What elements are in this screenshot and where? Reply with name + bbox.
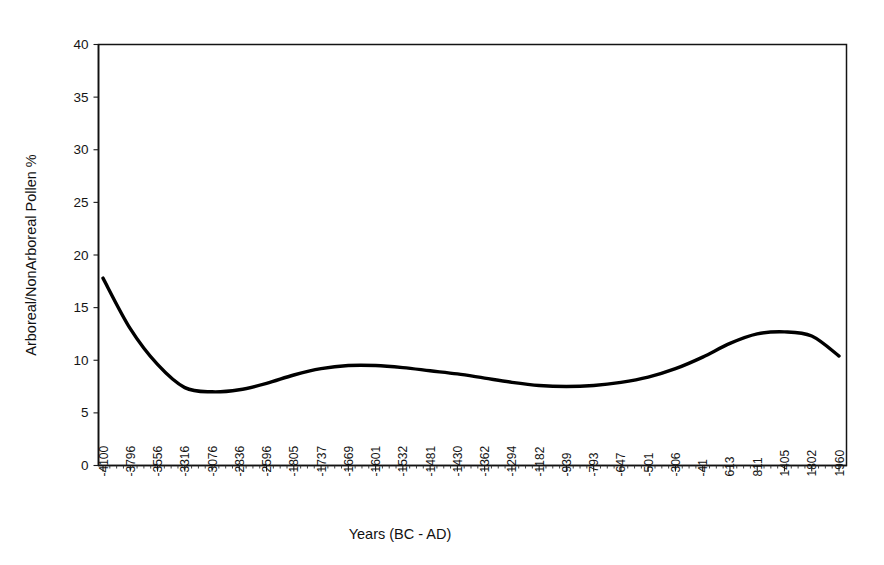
y-tick-label: 15	[73, 300, 88, 315]
x-tick-label: -3556	[151, 445, 165, 476]
x-tick-label: -647	[614, 452, 628, 476]
pollen-diagram-figure: 0510152025303540 -4100-3796-3556-3316-30…	[0, 0, 884, 565]
x-tick-label: -306	[669, 452, 683, 476]
x-tick-label: -3796	[124, 445, 138, 476]
x-tick-label: 1405	[778, 449, 792, 476]
plot-area-border	[99, 45, 847, 466]
x-tick-label: -41	[696, 459, 710, 477]
x-tick-label: -2836	[233, 445, 247, 476]
y-tick-label: 40	[73, 37, 88, 52]
x-tick-label: -3316	[178, 445, 192, 476]
y-tick-label: 25	[73, 195, 88, 210]
x-tick-label: -1601	[369, 445, 383, 476]
x-tick-label: -1430	[451, 445, 465, 476]
x-tick-label: 613	[723, 456, 737, 476]
y-axis-tick-labels: 0510152025303540	[73, 37, 88, 473]
y-tick-label: 30	[73, 142, 88, 157]
y-tick-label: 5	[81, 405, 89, 420]
x-tick-label: -1737	[315, 445, 329, 476]
x-tick-label: -501	[642, 452, 656, 476]
x-tick-label: -2596	[260, 445, 274, 476]
x-tick-label: 1960	[833, 449, 847, 476]
y-tick-label: 35	[73, 90, 88, 105]
x-tick-label: -1362	[478, 445, 492, 476]
y-tick-label: 0	[81, 458, 89, 473]
x-tick-label: -1182	[533, 446, 547, 476]
x-tick-label: -1481	[424, 445, 438, 476]
pollen-curve	[103, 278, 839, 392]
x-axis-tick-labels: -4100-3796-3556-3316-3076-2836-2596-1805…	[97, 445, 847, 476]
x-tick-label: -939	[560, 452, 574, 476]
x-tick-label: -793	[587, 452, 601, 476]
x-axis-title: Years (BC - AD)	[349, 526, 452, 542]
chart-canvas: 0510152025303540 -4100-3796-3556-3316-30…	[0, 0, 884, 565]
x-tick-label: 1802	[805, 449, 819, 476]
x-tick-label: -4100	[97, 445, 111, 476]
x-tick-label: -1294	[505, 445, 519, 476]
y-tick-label: 20	[73, 248, 88, 263]
x-tick-label: -1532	[396, 445, 410, 476]
y-axis-title: Arboreal/NonArboreal Pollen %	[23, 154, 39, 356]
x-tick-label: 811	[751, 457, 765, 476]
x-tick-label: -1669	[342, 445, 356, 476]
x-tick-label: -1805	[287, 445, 301, 476]
y-tick-label: 10	[73, 353, 88, 368]
x-tick-label: -3076	[206, 445, 220, 476]
